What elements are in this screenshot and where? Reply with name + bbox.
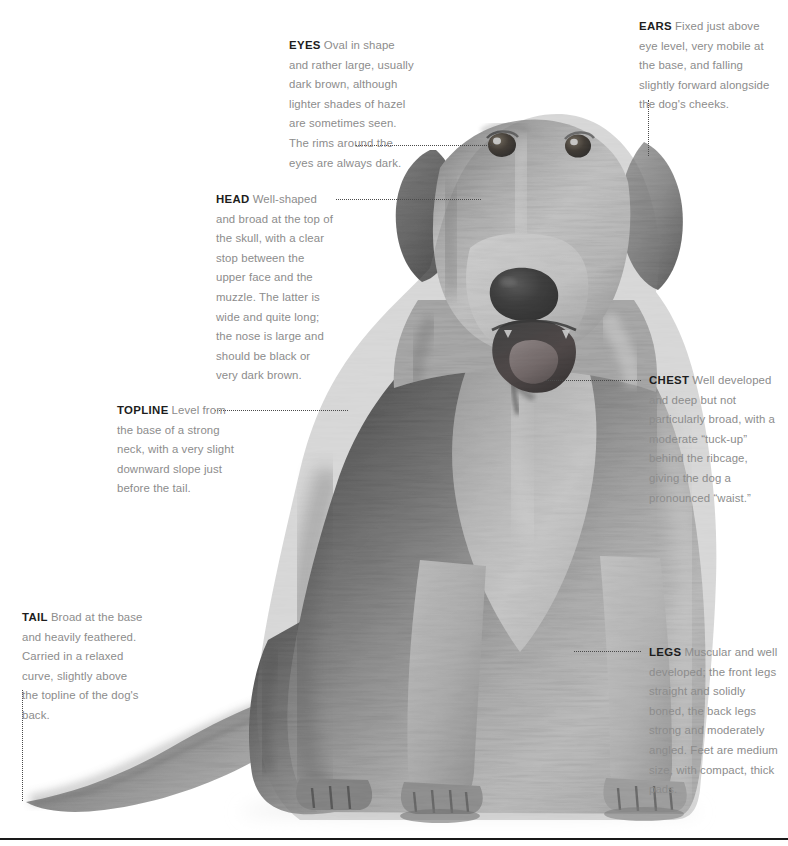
callout-ears-term: EARS — [639, 20, 672, 32]
page-root: EYESOval in shape and rather large, usua… — [0, 0, 788, 846]
callout-chest-text: Well developed and deep but not particul… — [649, 374, 775, 504]
callout-tail-term: TAIL — [22, 611, 48, 623]
callout-head: HEADWell-shaped and broad at the top of … — [216, 190, 334, 386]
callout-tail-text: Broad at the base and heavily feathered.… — [22, 611, 143, 721]
callout-head-term: HEAD — [216, 193, 250, 205]
callout-eyes-text: Oval in shape and rather large, usually … — [289, 39, 414, 169]
callout-topline-term: TOPLINE — [117, 404, 169, 416]
callout-tail: TAILBroad at the base and heavily feathe… — [22, 608, 146, 726]
leader-head — [336, 199, 481, 201]
callout-ears: EARSFixed just above eye level, very mob… — [639, 17, 771, 115]
callout-head-text: Well-shaped and broad at the top of the … — [216, 193, 333, 381]
callout-legs-term: LEGS — [649, 646, 681, 658]
leader-chest — [546, 380, 641, 382]
callout-topline-text: Level from the base of a strong neck, wi… — [117, 404, 234, 494]
callout-topline: TOPLINELevel from the base of a strong n… — [117, 401, 236, 499]
callout-legs-text: Muscular and well developed; the front l… — [649, 646, 778, 795]
callout-ears-text: Fixed just above eye level, very mobile … — [639, 20, 770, 110]
callout-chest-term: CHEST — [649, 374, 689, 386]
leader-legs — [574, 651, 641, 653]
bottom-divider-rule — [0, 838, 788, 840]
callout-legs: LEGSMuscular and well developed; the fro… — [649, 643, 780, 800]
callout-eyes: EYESOval in shape and rather large, usua… — [289, 36, 415, 173]
callout-chest: CHESTWell developed and deep but not par… — [649, 371, 777, 508]
callout-eyes-term: EYES — [289, 39, 321, 51]
